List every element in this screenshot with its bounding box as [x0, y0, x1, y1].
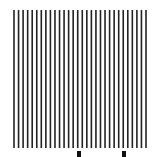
right-marker	[122, 151, 126, 157]
vertical-line-grating	[0, 0, 156, 157]
grating-lines	[14, 10, 146, 148]
left-marker	[77, 151, 81, 157]
